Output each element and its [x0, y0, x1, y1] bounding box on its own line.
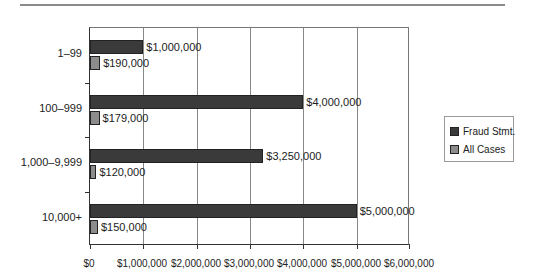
bar-fraud-stmt [90, 40, 143, 54]
x-tick [303, 244, 304, 249]
legend-label-fraud: Fraud Stmt. [463, 126, 515, 137]
top-rule [20, 4, 505, 6]
legend-swatch-fraud [450, 127, 459, 136]
bar-all-cases [90, 165, 96, 179]
bar-all-cases [90, 56, 100, 70]
y-tick [85, 83, 90, 84]
value-label: $120,000 [99, 165, 145, 179]
bar-all-cases [90, 111, 100, 125]
x-tick-label: $4,000,000 [277, 258, 327, 269]
x-tick-label: $1,000,000 [117, 258, 167, 269]
y-tick [85, 192, 90, 193]
x-tick-label: $6,000,000 [384, 258, 434, 269]
value-label: $190,000 [103, 56, 149, 70]
x-tick [143, 244, 144, 249]
x-tick [409, 244, 410, 249]
value-label: $3,250,000 [266, 149, 321, 163]
value-label: $5,000,000 [360, 204, 415, 218]
value-label: $179,000 [103, 111, 149, 125]
legend-item-all: All Cases [450, 144, 505, 155]
gridline [357, 28, 358, 244]
x-tick [90, 244, 91, 249]
plot-area: $1,000,000$190,000$4,000,000$179,000$3,2… [89, 27, 409, 245]
x-tick-label: $5,000,000 [331, 258, 381, 269]
x-tick [197, 244, 198, 249]
value-label: $1,000,000 [146, 40, 201, 54]
bar-fraud-stmt [90, 204, 357, 218]
legend: Fraud Stmt. All Cases [444, 116, 514, 162]
category-label: 100–999 [39, 102, 82, 114]
category-label: 10,000+ [42, 211, 82, 223]
bar-fraud-stmt [90, 149, 263, 163]
bar-fraud-stmt [90, 95, 303, 109]
legend-label-all: All Cases [463, 144, 505, 155]
x-tick-label: $3,000,000 [224, 258, 274, 269]
x-tick [357, 244, 358, 249]
x-tick-label: $0 [83, 258, 94, 269]
x-tick-label: $2,000,000 [171, 258, 221, 269]
legend-item-fraud: Fraud Stmt. [450, 126, 515, 137]
value-label: $150,000 [101, 220, 147, 234]
bar-all-cases [90, 220, 98, 234]
y-tick [85, 137, 90, 138]
category-label: 1–99 [58, 47, 82, 59]
x-tick [250, 244, 251, 249]
category-label: 1,000–9,999 [21, 156, 82, 168]
legend-swatch-all [450, 145, 459, 154]
value-label: $4,000,000 [306, 95, 361, 109]
